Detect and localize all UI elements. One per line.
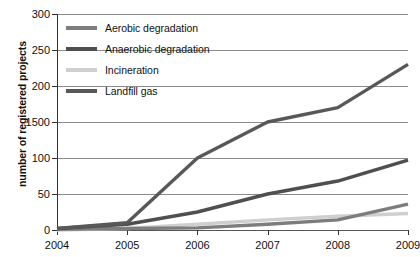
x-axis-tick bbox=[408, 230, 409, 235]
line-chart: number of registered projects 0501001500… bbox=[0, 0, 420, 257]
x-axis-tick bbox=[127, 230, 128, 235]
y-axis-label: 0 bbox=[44, 224, 50, 236]
x-axis-tick bbox=[338, 230, 339, 235]
x-axis-label: 2006 bbox=[185, 239, 209, 251]
x-axis-tick bbox=[197, 230, 198, 235]
chart-legend: Aerobic degradationAnaerobic degradation… bbox=[66, 22, 210, 97]
legend-swatch-icon bbox=[66, 47, 97, 51]
legend-item[interactable]: Incineration bbox=[66, 64, 210, 76]
y-axis-label: 1500 bbox=[26, 116, 50, 128]
x-axis-tick bbox=[268, 230, 269, 235]
x-axis-label: 2009 bbox=[396, 239, 420, 251]
legend-label: Anaerobic degradation bbox=[105, 43, 210, 55]
x-axis-label: 2005 bbox=[115, 239, 139, 251]
x-axis-label: 2008 bbox=[326, 239, 350, 251]
legend-label: Landfill gas bbox=[105, 85, 158, 97]
y-axis-label: 50 bbox=[38, 188, 50, 200]
legend-swatch-icon bbox=[66, 89, 97, 93]
legend-swatch-icon bbox=[66, 68, 97, 72]
y-axis-title: number of registered projects bbox=[16, 39, 28, 189]
x-axis-label: 2007 bbox=[255, 239, 279, 251]
series-line bbox=[57, 160, 408, 228]
y-axis-label: 100 bbox=[32, 152, 50, 164]
legend-label: Incineration bbox=[105, 64, 159, 76]
y-axis-label: 300 bbox=[32, 8, 50, 20]
y-axis-label: 250 bbox=[32, 44, 50, 56]
legend-swatch-icon bbox=[66, 26, 97, 30]
x-axis-label: 2004 bbox=[45, 239, 69, 251]
legend-item[interactable]: Aerobic degradation bbox=[66, 22, 210, 34]
legend-item[interactable]: Landfill gas bbox=[66, 85, 210, 97]
y-axis-label: 200 bbox=[32, 80, 50, 92]
legend-label: Aerobic degradation bbox=[105, 22, 198, 34]
legend-item[interactable]: Anaerobic degradation bbox=[66, 43, 210, 55]
